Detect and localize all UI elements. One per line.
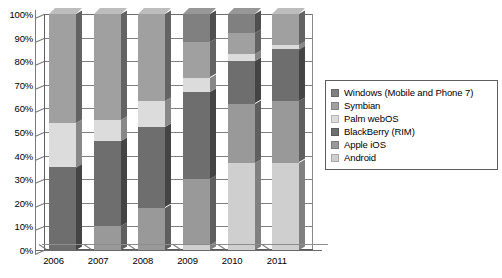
y-axis-tick-mark <box>35 61 45 66</box>
legend-swatch-icon <box>331 154 339 162</box>
x-axis-label: 2008 <box>123 255 163 266</box>
bar-segment[interactable] <box>183 78 210 92</box>
bar-column[interactable] <box>138 14 165 250</box>
bar-segment-side <box>210 176 216 246</box>
legend-item[interactable]: Apple iOS <box>331 138 493 151</box>
y-axis-tick-label: 50% <box>15 127 33 138</box>
bar-segment[interactable] <box>94 141 121 226</box>
bar-segment-side <box>299 159 305 250</box>
bar-segment[interactable] <box>272 163 299 250</box>
bar-segment[interactable] <box>183 92 210 179</box>
legend-label: Palm webOS <box>344 113 398 124</box>
bar-segment-side <box>121 138 127 226</box>
bar-segment-side <box>121 223 127 250</box>
legend-swatch-icon <box>331 128 339 136</box>
bar-segment-side <box>210 88 216 179</box>
legend-label: BlackBerry (RIM) <box>344 126 415 137</box>
legend-swatch-icon <box>331 102 339 110</box>
bar-segment[interactable] <box>228 163 255 250</box>
bar-segment[interactable] <box>183 14 210 42</box>
bar-segment-side <box>76 164 82 250</box>
bar-segment[interactable] <box>138 101 165 127</box>
y-axis-tick-mark <box>35 156 45 161</box>
y-axis-tick-label: 80% <box>15 56 33 67</box>
y-axis-tick-mark <box>35 108 45 113</box>
bar-segment[interactable] <box>49 167 76 250</box>
legend-item[interactable]: Palm webOS <box>331 112 493 125</box>
bar-segment-side <box>76 11 82 123</box>
y-axis-tick-label: 40% <box>15 150 33 161</box>
legend-swatch-icon <box>331 115 339 123</box>
bar-segment[interactable] <box>94 226 121 250</box>
bar-segment-side <box>210 39 216 78</box>
y-axis-tick-label: 100% <box>10 9 34 20</box>
x-axis-label: 2011 <box>257 255 297 266</box>
legend-swatch-icon <box>331 141 339 149</box>
y-axis-tick-label: 70% <box>15 79 33 90</box>
legend-item[interactable]: BlackBerry (RIM) <box>331 125 493 138</box>
y-axis-tick-mark <box>35 179 45 184</box>
bar-segment-side <box>299 98 305 163</box>
bar-segment[interactable] <box>49 14 76 123</box>
bar-segment[interactable] <box>228 33 255 54</box>
bar-column[interactable] <box>183 14 210 250</box>
bar-segment[interactable] <box>228 104 255 163</box>
legend-label: Windows (Mobile and Phone 7) <box>344 87 473 98</box>
y-axis-tick-label: 60% <box>15 103 33 114</box>
legend-item[interactable]: Android <box>331 151 493 164</box>
stacked-bar-chart: 0%10%20%30%40%50%60%70%80%90%100% Window… <box>0 0 502 278</box>
bar-stack <box>183 14 210 250</box>
x-axis-label: 2010 <box>212 255 252 266</box>
bar-segment[interactable] <box>228 54 255 61</box>
x-axis-label: 2006 <box>34 255 74 266</box>
x-axis-label: 2009 <box>168 255 208 266</box>
bar-segment[interactable] <box>183 179 210 245</box>
bar-column[interactable] <box>49 14 76 250</box>
legend-label: Android <box>344 152 376 163</box>
bar-segment[interactable] <box>138 127 165 207</box>
bar-top-face <box>94 8 127 14</box>
bar-stack <box>272 14 299 250</box>
y-axis-tick-label: 10% <box>15 221 33 232</box>
bar-column[interactable] <box>228 14 255 250</box>
bar-segment-side <box>299 46 305 101</box>
plot-area <box>45 14 313 250</box>
bar-segment-side <box>255 58 261 104</box>
bar-segment[interactable] <box>228 14 255 33</box>
y-axis-tick-mark <box>35 85 45 90</box>
bar-segment-side <box>255 159 261 250</box>
bar-column[interactable] <box>94 14 121 250</box>
bar-segment[interactable] <box>49 123 76 168</box>
bar-segment[interactable] <box>94 120 121 141</box>
bar-segment[interactable] <box>272 14 299 45</box>
bar-segment[interactable] <box>272 101 299 162</box>
y-axis-tick-label: 0% <box>20 245 33 256</box>
y-axis-tick-mark <box>35 203 45 208</box>
bar-segment-side <box>165 124 171 208</box>
bar-stack <box>94 14 121 250</box>
x-axis-label: 2007 <box>78 255 118 266</box>
bar-segment-side <box>121 117 127 142</box>
bar-column[interactable] <box>272 14 299 250</box>
bar-segment[interactable] <box>138 14 165 101</box>
bar-segment-side <box>255 100 261 162</box>
bar-segment[interactable] <box>272 49 299 101</box>
legend-label: Apple iOS <box>344 139 386 150</box>
bar-segment-side <box>210 11 216 43</box>
y-axis-tick-mark <box>35 226 45 231</box>
y-axis-line <box>35 10 36 254</box>
bar-segment[interactable] <box>228 61 255 103</box>
chart-legend: Windows (Mobile and Phone 7)SymbianPalm … <box>325 80 498 170</box>
bar-top-face <box>228 8 261 14</box>
bar-stack <box>49 14 76 250</box>
legend-item[interactable]: Windows (Mobile and Phone 7) <box>331 86 493 99</box>
bar-segment[interactable] <box>183 42 210 77</box>
bar-segment[interactable] <box>272 45 299 50</box>
bar-segment[interactable] <box>94 14 121 120</box>
bar-segment-side <box>299 11 305 45</box>
bar-segment-side <box>76 119 82 167</box>
legend-item[interactable]: Symbian <box>331 99 493 112</box>
legend-label: Symbian <box>344 100 380 111</box>
bar-segment-side <box>255 11 261 33</box>
y-axis-tick-mark <box>35 132 45 137</box>
